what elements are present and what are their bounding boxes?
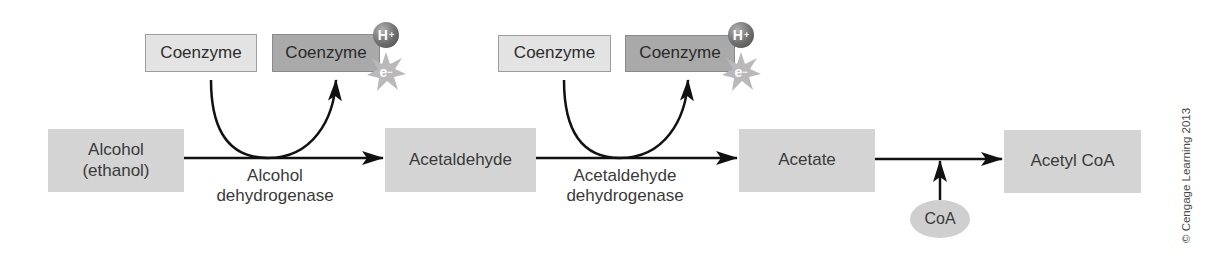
electron-symbol-1: e− — [364, 50, 408, 94]
enzyme-label-alcohol-dehydrogenase: Alcohol dehydrogenase — [200, 166, 350, 207]
coenzyme-reduced-2-label: Coenzyme — [639, 43, 720, 63]
coenzyme-oxidized-1-label: Coenzyme — [160, 43, 241, 63]
molecule-acetaldehyde-label: Acetaldehyde — [409, 150, 512, 170]
molecule-acetate: Acetate — [739, 129, 875, 192]
enzyme-1-line1: Alcohol — [200, 166, 350, 186]
hydrogen-ion-icon-1: H+ — [373, 22, 399, 48]
molecule-acetaldehyde: Acetaldehyde — [385, 128, 536, 192]
molecule-alcohol-line1: Alcohol — [88, 140, 144, 160]
coenzyme-oxidized-2-label: Coenzyme — [514, 43, 595, 63]
enzyme-2-line1: Acetaldehyde — [545, 166, 705, 186]
cofactor-coa: CoA — [910, 200, 970, 238]
enzyme-2-line2: dehydrogenase — [545, 186, 705, 206]
coenzyme-curve-2 — [564, 80, 688, 158]
molecule-acetyl-coa: Acetyl CoA — [1004, 130, 1141, 193]
enzyme-label-acetaldehyde-dehydrogenase: Acetaldehyde dehydrogenase — [545, 166, 705, 207]
coenzyme-curve-1 — [211, 80, 336, 158]
coenzyme-oxidized-1: Coenzyme — [145, 34, 257, 72]
enzyme-1-line2: dehydrogenase — [200, 186, 350, 206]
coenzyme-reduced-1-label: Coenzyme — [285, 43, 366, 63]
molecule-alcohol: Alcohol (ethanol) — [48, 129, 184, 192]
molecule-alcohol-line2: (ethanol) — [82, 161, 149, 181]
copyright-notice: © Cengage Learning 2013 — [1180, 108, 1192, 243]
cofactor-coa-label: CoA — [924, 210, 955, 228]
electron-symbol-2: e− — [719, 50, 763, 94]
hydrogen-ion-icon-2: H+ — [728, 22, 754, 48]
molecule-acetyl-coa-label: Acetyl CoA — [1030, 151, 1114, 171]
electron-icon-1: e− — [364, 50, 408, 94]
coenzyme-oxidized-2: Coenzyme — [498, 35, 611, 72]
molecule-acetate-label: Acetate — [778, 150, 836, 170]
electron-icon-2: e− — [719, 50, 763, 94]
